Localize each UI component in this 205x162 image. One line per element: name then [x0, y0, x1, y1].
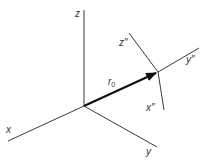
coordinate-diagram: z x y r0 z″ y″ x″ [0, 0, 205, 162]
r0-label-subscript: 0 [111, 81, 115, 88]
x-axis [8, 106, 84, 141]
z-axis-label: z [74, 8, 80, 19]
z-double-prime-axis [129, 33, 158, 72]
r0-label: r0 [108, 76, 115, 88]
y-axis-label: y [145, 146, 152, 157]
x-axis-label: x [5, 124, 12, 135]
x-double-prime-label: x″ [145, 102, 155, 113]
y-double-prime-label: y″ [185, 54, 195, 65]
x-double-prime-axis [158, 72, 164, 110]
z-double-prime-label: z″ [118, 37, 128, 48]
